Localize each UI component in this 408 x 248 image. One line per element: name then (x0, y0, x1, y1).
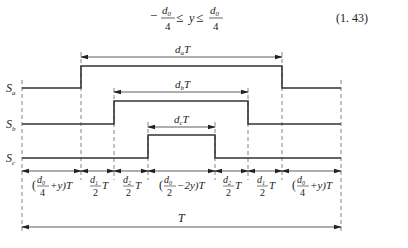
guide-lines (22, 52, 341, 234)
equation-relation-1: ≤ (176, 10, 183, 25)
segment-7-numerator: d0 (297, 174, 305, 186)
segment-2-denominator: 2 (93, 187, 98, 198)
segment-3-denominator: 2 (126, 187, 131, 198)
segment-1-tail: +y)T (50, 179, 73, 192)
segment-4-denominator: 2 (167, 187, 172, 198)
duration-label-da: daT (175, 43, 191, 57)
equation-right-denominator: 4 (213, 20, 219, 32)
signal-label-sb: Sb (6, 117, 16, 133)
period-label: T (178, 211, 186, 225)
segment-7-denominator: 4 (300, 187, 305, 198)
segment-1-numerator: d0 (37, 174, 45, 186)
segment-label-5: d2 2 T (223, 174, 242, 198)
segment-4-tail: −2y)T (177, 179, 205, 192)
segment-7-paren: ( (292, 178, 296, 192)
waveform-sc (22, 135, 341, 158)
equation-left-denominator: 4 (165, 20, 171, 32)
equation-relation-2: ≤ (196, 10, 203, 25)
equation-right-numerator: d0 (210, 4, 220, 18)
signal-label-sa: Sa (6, 81, 16, 97)
segment-4-numerator: d0 (164, 174, 172, 186)
segment-2-tail: T (102, 179, 109, 191)
switching-timing-diagram: − d0 4 ≤ y ≤ d0 4 (1. 43) Sa Sb Sc daT d… (0, 0, 408, 248)
segment-3-tail: T (135, 179, 142, 191)
segment-label-1: ( d0 4 +y)T (32, 174, 73, 198)
segment-1-paren: ( (32, 178, 36, 192)
segment-5-numerator: d2 (223, 174, 231, 186)
segment-label-2: d1 2 T (90, 174, 109, 198)
segment-6-denominator: 2 (260, 187, 265, 198)
equation-left-numerator: d0 (162, 4, 172, 18)
segment-4-paren: ( (159, 178, 163, 192)
signal-label-sc: Sc (6, 151, 16, 167)
segment-5-denominator: 2 (226, 187, 231, 198)
segment-label-6: d1 2 T (257, 174, 276, 198)
segment-label-7: ( d0 4 +y)T (292, 174, 333, 198)
signal-waveforms (22, 66, 341, 158)
equation: − d0 4 ≤ y ≤ d0 4 (1. 43) (150, 4, 368, 32)
segment-6-tail: T (269, 179, 276, 191)
duration-arrows: daT dbT dcT (81, 43, 282, 127)
equation-variable: y (188, 11, 195, 25)
segment-label-4: ( d0 2 −2y)T (159, 174, 205, 198)
segment-1-denominator: 4 (40, 187, 45, 198)
equation-number: (1. 43) (336, 11, 368, 25)
segment-label-3: d2 2 T (123, 174, 142, 198)
segment-labels: ( d0 4 +y)T d1 2 T d2 2 T ( d0 2 −2y)T (32, 174, 333, 198)
duration-label-db: dbT (175, 78, 191, 92)
duration-label-dc: dcT (174, 113, 190, 127)
segment-6-numerator: d1 (257, 174, 265, 186)
segment-7-tail: +y)T (310, 179, 333, 192)
segment-2-numerator: d1 (90, 174, 98, 186)
equation-minus: − (150, 8, 157, 23)
segment-3-numerator: d2 (123, 174, 131, 186)
segment-5-tail: T (235, 179, 242, 191)
